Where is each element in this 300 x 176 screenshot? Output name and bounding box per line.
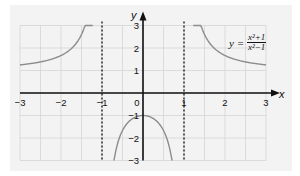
y-tick-label: 3 [134,20,139,31]
x-tick-label: 0 [134,97,139,108]
y-tick-label: 1 [134,65,139,76]
y-tick-label: −2 [128,133,139,144]
x-tick-label: −1 [97,97,108,108]
x-axis-label: x [278,88,285,100]
panel-background [10,5,292,171]
function-graph: xy −3−2−10123321−1−2−3 y = x²+1 x²−1 [0,0,300,176]
x-tick-label: 1 [181,97,186,108]
x-tick-label: −2 [56,97,67,108]
x-tick-label: 3 [263,97,268,108]
equation-fraction: x²+1 x²−1 [247,33,266,52]
equation-label: y = x²+1 x²−1 [229,33,266,52]
x-tick-label: 2 [222,97,227,108]
equation-lhs: y = [229,37,244,49]
y-tick-label: 2 [134,43,139,54]
plot-area: xy −3−2−10123321−1−2−3 [0,0,300,176]
equation-denominator: x²−1 [247,43,266,52]
x-tick-label: −3 [15,97,26,108]
y-tick-label: −3 [128,155,139,166]
y-tick-label: −1 [128,110,139,121]
